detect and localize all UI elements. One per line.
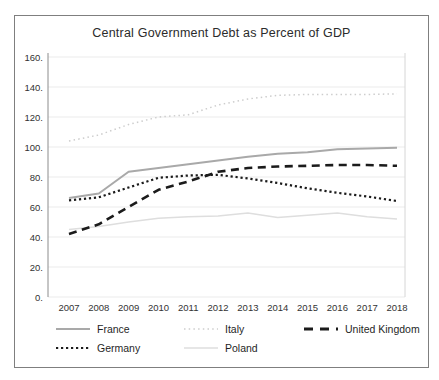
x-tick-label: 2007 — [58, 302, 79, 313]
legend-label: United Kingdom — [345, 323, 420, 335]
x-tick-label: 2014 — [267, 302, 288, 313]
x-tick-label: 2009 — [118, 302, 139, 313]
y-tick-label: 100. — [25, 142, 44, 153]
x-tick-label: 2013 — [237, 302, 258, 313]
legend-swatch-icon — [56, 343, 90, 353]
x-tick-label: 2011 — [178, 302, 198, 313]
legend-label: Italy — [225, 323, 244, 335]
legend-item-italy: Italy — [184, 323, 304, 335]
x-tick-label: 2016 — [327, 302, 348, 313]
legend-item-france: France — [56, 323, 184, 335]
y-tick-label: 160. — [25, 52, 44, 63]
legend-label: France — [97, 323, 130, 335]
x-tick-label: 2008 — [88, 302, 109, 313]
legend-item-poland: Poland — [184, 342, 304, 354]
x-tick-label: 2017 — [357, 302, 378, 313]
y-tick-label: 140. — [25, 82, 44, 93]
x-tick-label: 2012 — [208, 302, 229, 313]
legend-swatch-icon — [56, 324, 90, 334]
legend-item-germany: Germany — [56, 342, 184, 354]
legend-item-united-kingdom: United Kingdom — [304, 323, 420, 335]
y-tick-label: 120. — [25, 112, 44, 123]
chart-legend: FranceItalyUnited KingdomGermanyPoland — [56, 323, 412, 354]
y-tick-label: 0. — [35, 292, 43, 303]
legend-swatch-icon — [184, 324, 218, 334]
y-tick-label: 60. — [30, 202, 43, 213]
series-line-poland — [69, 213, 397, 230]
legend-label: Poland — [225, 342, 258, 354]
y-tick-label: 80. — [30, 172, 43, 183]
legend-label: Germany — [97, 342, 140, 354]
legend-swatch-icon — [184, 343, 218, 353]
x-tick-label: 2010 — [148, 302, 169, 313]
y-tick-label: 40. — [30, 232, 43, 243]
y-tick-label: 20. — [30, 262, 43, 273]
legend-swatch-icon — [304, 324, 338, 334]
x-tick-label: 2015 — [297, 302, 318, 313]
x-tick-label: 2018 — [386, 302, 407, 313]
